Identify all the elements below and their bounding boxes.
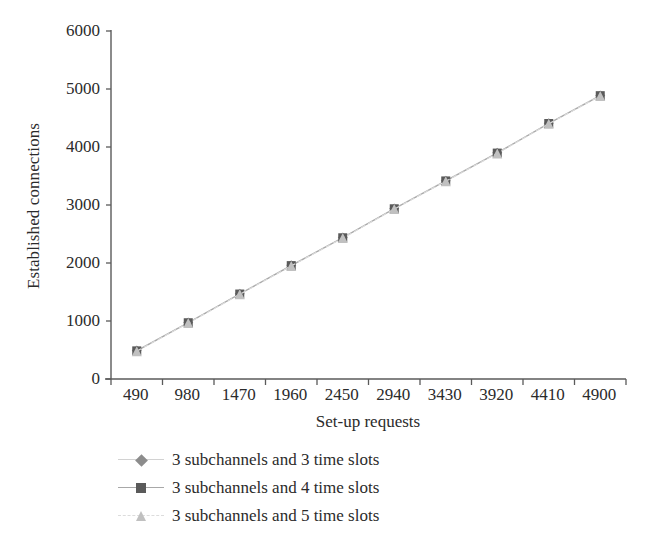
x-axis-tick-labels: 49098014701960245029403430392044104900 [110,386,626,410]
legend-item[interactable]: 3 subchannels and 3 time slots [118,446,538,474]
x-tick-label: 4900 [569,386,629,403]
legend-item[interactable]: 3 subchannels and 5 time slots [118,502,538,530]
legend-label: 3 subchannels and 4 time slots [164,478,379,498]
chart-figure: Established connections 0100020003000400… [0,0,650,542]
legend-label: 3 subchannels and 3 time slots [164,450,379,470]
legend-marker-triangle-icon [136,511,146,521]
legend-marker-square-icon [136,483,146,493]
x-axis-title: Set-up requests [110,412,626,432]
legend-key-triangle-icon [118,506,164,526]
legend-label: 3 subchannels and 5 time slots [164,506,379,526]
legend-marker-diamond-icon [135,454,148,467]
legend-key-square-icon [118,478,164,498]
chart-legend: 3 subchannels and 3 time slots3 subchann… [118,446,538,530]
legend-key-diamond-icon [118,450,164,470]
legend-item[interactable]: 3 subchannels and 4 time slots [118,474,538,502]
